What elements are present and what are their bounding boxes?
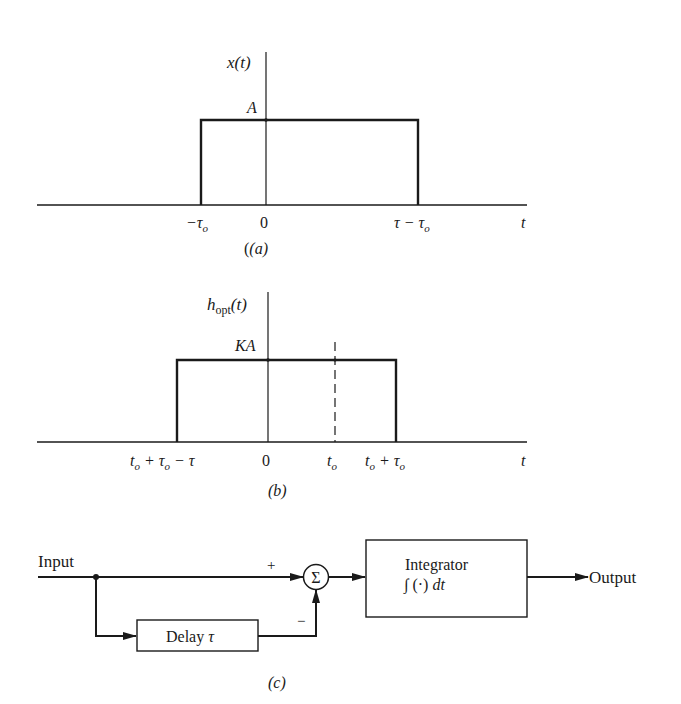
caption-b: (b) [268,482,287,500]
input-label: Input [38,552,74,571]
panel-b-optimal-filter: hopt(t) KA to + τo − τ 0 to to + τo t (b… [37,292,527,500]
t-o-dot [333,358,336,361]
rectangular-pulse [201,120,418,205]
tick-label-right-edge: to + τo [365,452,405,472]
panel-c-block-diagram: Input + Delay τ − Σ Integrator ∫ (·) dt … [38,540,637,692]
integrator-title: Integrator [405,556,469,574]
tick-label-tau-minus-tau-o: τ − τo [394,214,430,234]
tick-label-t-o: to [327,452,337,472]
x-axis-label: t [521,452,526,469]
y-axis-label: x(t) [226,53,251,72]
amplitude-label: A [246,99,257,116]
minus-sign: − [297,613,305,629]
amplitude-label: KA [234,337,256,354]
amplitude-dot [264,118,268,122]
x-axis-label: t [521,214,526,231]
integrator-block [366,540,527,617]
tick-label-left-edge: to + τo − τ [130,452,196,472]
tick-label-zero: 0 [260,214,268,231]
matched-filter-figure: x(t) A −τo 0 τ − τo t ((a) hopt(t) KA to… [0,0,681,704]
plus-sign: + [267,557,275,573]
delay-output-arrow [258,590,316,636]
amplitude-dot [266,358,270,362]
delay-input-arrow [96,577,136,636]
integrator-formula: ∫ (·) dt [403,576,445,595]
filter-impulse-response [177,360,396,442]
caption-a: ((a) [244,240,268,258]
output-label: Output [589,568,637,587]
delay-block-label: Delay τ [166,628,215,646]
panel-a-input-pulse: x(t) A −τo 0 τ − τo t ((a) [37,52,527,258]
caption-c: (c) [268,674,286,692]
tick-label-neg-tau-o: −τo [186,214,209,234]
y-axis-label: hopt(t) [207,295,247,317]
sigma-symbol: Σ [311,569,320,586]
tick-label-zero: 0 [262,452,270,469]
